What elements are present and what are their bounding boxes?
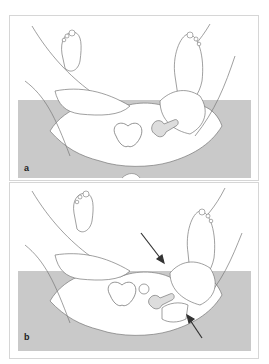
- figure-panel-a: a: [9, 15, 259, 181]
- figure-panel-b: b: [9, 182, 259, 359]
- panel-label-b: b: [24, 332, 30, 342]
- femoral-head: [139, 284, 149, 294]
- examiner-fingers: [162, 303, 188, 322]
- panel-label-a: a: [24, 163, 29, 173]
- infant-left-foot: [62, 32, 82, 71]
- infant-left-foot: [74, 193, 94, 232]
- arrow-down-icon: [141, 233, 164, 263]
- hip-exam-illustration-b: [10, 183, 259, 359]
- hip-exam-illustration-a: [10, 16, 259, 181]
